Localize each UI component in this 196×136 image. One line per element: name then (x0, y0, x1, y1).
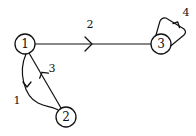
node-3: 3 (151, 34, 171, 54)
node-2: 2 (56, 107, 76, 127)
node-1-label: 1 (21, 37, 29, 51)
edge-4-label: 4 (183, 6, 190, 19)
edge-2: 2 (35, 18, 151, 52)
node-3-label: 3 (157, 37, 165, 51)
node-2-label: 2 (62, 110, 70, 124)
edge-4-arrow-icon (173, 22, 180, 29)
edge-3-label: 3 (49, 62, 56, 75)
edge-1-label: 1 (14, 94, 21, 107)
node-1: 1 (15, 34, 35, 54)
graph-diagram: 2 3 1 4 1 2 3 (0, 0, 196, 136)
edge-2-label: 2 (87, 18, 94, 31)
